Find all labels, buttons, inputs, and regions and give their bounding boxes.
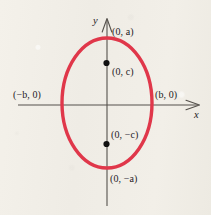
label-bottom-vertex: (0, −a) — [110, 173, 137, 184]
ellipse-plot-canvas — [0, 0, 211, 215]
x-axis-label: x — [194, 109, 199, 120]
upper-focus-point — [103, 60, 109, 66]
x-axis — [18, 100, 200, 110]
label-upper-focus: (0, c) — [112, 66, 134, 77]
label-lower-focus: (0, −c) — [111, 129, 138, 140]
label-left-co-vertex: (−b, 0) — [13, 89, 41, 100]
ellipse-figure: (0, a) (0, c) (0, −c) (0, −a) (−b, 0) (b… — [0, 0, 211, 215]
label-right-co-vertex: (b, 0) — [155, 89, 177, 100]
y-axis-label: y — [93, 15, 98, 26]
label-top-vertex: (0, a) — [112, 26, 134, 37]
lower-focus-point — [103, 141, 109, 147]
